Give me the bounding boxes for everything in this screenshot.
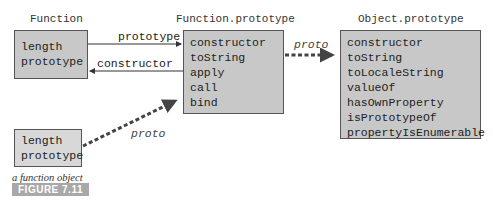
object-prototype-title: Object.prototype: [358, 13, 464, 25]
proto-edge-bottom-label: proto: [131, 127, 166, 140]
function-prototype-prop-apply: apply: [190, 65, 277, 80]
function-node: length prototype: [14, 30, 88, 79]
proto-edge-top-label: proto: [294, 38, 329, 51]
object-prototype-prop-tolocalestring: toLocaleString: [347, 65, 474, 80]
prototype-edge-label: prototype: [118, 30, 180, 43]
function-prototype-node: constructor toString apply call bind: [183, 30, 284, 114]
function-prototype-prop-tostring: toString: [190, 50, 277, 65]
function-prototype-prop-call: call: [190, 80, 277, 95]
function-prototype-prop-bind: bind: [190, 95, 277, 110]
object-prototype-node: constructor toString toLocaleString valu…: [340, 30, 481, 139]
function-object-prop-prototype: prototype: [21, 148, 75, 163]
function-prop-length: length: [21, 39, 81, 54]
function-prototype-title: Function.prototype: [176, 13, 295, 25]
figure-label: FIGURE 7.11: [12, 183, 89, 196]
function-title: Function: [30, 13, 83, 25]
object-prototype-prop-hasownproperty: hasOwnProperty: [347, 95, 474, 110]
function-object-node: length prototype: [14, 129, 82, 167]
object-prototype-prop-isprototypeof: isPrototypeOf: [347, 110, 474, 125]
constructor-edge-label: constructor: [97, 57, 173, 70]
function-object-caption: a function object: [12, 172, 83, 183]
function-prototype-prop-constructor: constructor: [190, 35, 277, 50]
object-prototype-prop-constructor: constructor: [347, 35, 474, 50]
function-object-prop-length: length: [21, 133, 75, 148]
function-prop-prototype: prototype: [21, 54, 81, 69]
object-prototype-prop-valueof: valueOf: [347, 80, 474, 95]
object-prototype-prop-tostring: toString: [347, 50, 474, 65]
object-prototype-prop-propertyisenumerable: propertyIsEnumerable: [347, 125, 474, 140]
